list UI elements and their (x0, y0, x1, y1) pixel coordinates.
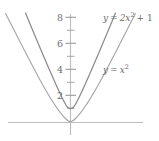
curve-annotation-upper: y=2x2+ 1 (103, 14, 153, 23)
upper-label-lhs: y (103, 13, 108, 23)
lower-label-exponent: 2 (125, 63, 129, 71)
y-tick-label-8: 8 (49, 13, 63, 23)
lower-label-lhs: y (103, 65, 108, 75)
upper-label-coef: 2x (120, 13, 131, 23)
y-tick-label-2: 2 (49, 91, 63, 101)
parabola-comparison-figure: 8 6 4 2 y=2x2+ 1 y=x2 (0, 0, 159, 141)
curve-annotation-lower: y=x2 (103, 66, 129, 75)
upper-label-tail: + 1 (137, 13, 153, 23)
upper-label-eq: = (110, 13, 118, 23)
y-tick-label-4: 4 (49, 65, 63, 75)
lower-label-eq: = (110, 65, 118, 75)
y-tick-label-6: 6 (49, 39, 63, 49)
upper-label-exponent: 2 (130, 11, 134, 19)
